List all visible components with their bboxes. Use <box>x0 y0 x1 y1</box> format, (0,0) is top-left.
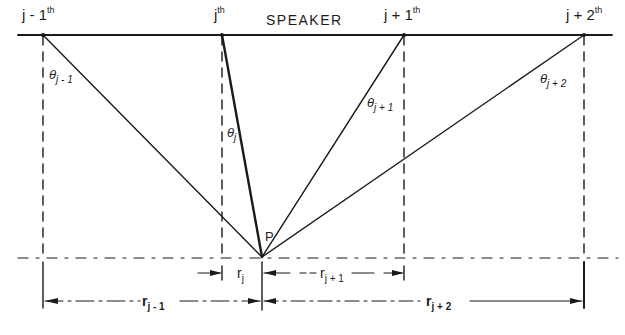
distance-subscript: j - 1 <box>147 301 164 312</box>
ray-j+1 <box>262 35 404 257</box>
ray-j+2 <box>262 35 584 257</box>
speaker-label-j: jth <box>214 7 225 22</box>
speaker-point-j+1 <box>402 33 406 37</box>
sound-rays <box>43 35 584 257</box>
angle-symbol: θ <box>49 67 56 82</box>
angle-subscript: j - 1 <box>56 74 73 85</box>
angle-label-j: θj <box>227 126 236 139</box>
angle-symbol: θ <box>227 125 234 140</box>
arrow-rj-1-left <box>45 298 58 304</box>
arrow-rj-1-right <box>248 298 260 304</box>
angle-subscript: j + 1 <box>374 102 393 113</box>
speaker-label-sup: th <box>217 5 225 15</box>
arrow-rj1-left <box>264 270 276 276</box>
distance-symbol: r <box>237 265 242 281</box>
distance-symbol: r <box>320 265 325 281</box>
speaker-label-j+1: j + 1th <box>384 7 420 22</box>
angle-label-j+2: θj + 2 <box>540 72 566 85</box>
speaker-point-j <box>220 33 224 37</box>
speaker-label-main: j + 2 <box>566 6 595 23</box>
speaker-label-j-1: j - 1th <box>22 7 55 22</box>
distance-label-j+1: rj + 1 <box>320 266 344 280</box>
angle-label-j-1: θj - 1 <box>49 68 73 81</box>
speaker-label-sup: th <box>47 5 55 15</box>
listener-point-label: P <box>265 230 274 243</box>
distance-subscript: j + 1 <box>325 273 344 284</box>
angle-label-j+1: θj + 1 <box>367 96 393 109</box>
arrow-rj2-right <box>570 298 582 304</box>
speaker-geometry-diagram <box>0 0 625 335</box>
angle-symbol: θ <box>367 95 374 110</box>
distance-subscript: j <box>242 273 244 284</box>
distance-label-j-1: rj - 1 <box>142 294 165 308</box>
arrow-rj2-left <box>264 298 276 304</box>
speaker-label-main: j - 1 <box>22 6 47 23</box>
distance-label-j+2: rj + 2 <box>426 294 451 308</box>
speaker-label-sup: th <box>595 5 603 15</box>
ray-j <box>222 35 262 257</box>
speaker-point-j-1 <box>41 33 45 37</box>
speaker-label-sup: th <box>413 5 421 15</box>
speaker-label-main: j + 1 <box>384 6 413 23</box>
speaker-point-j+2 <box>582 33 586 37</box>
vertical-projection-lines <box>43 36 584 258</box>
angle-subscript: j + 2 <box>547 78 566 89</box>
angle-symbol: θ <box>540 71 547 86</box>
diagram-title: SPEAKER <box>266 13 343 27</box>
arrow-rj1-right <box>392 270 404 276</box>
distance-subscript: j + 2 <box>431 301 451 312</box>
speaker-label-j+2: j + 2th <box>566 7 602 22</box>
angle-subscript: j <box>234 132 236 143</box>
arrow-rj-left <box>210 270 222 276</box>
distance-label-j: rj <box>237 266 244 280</box>
